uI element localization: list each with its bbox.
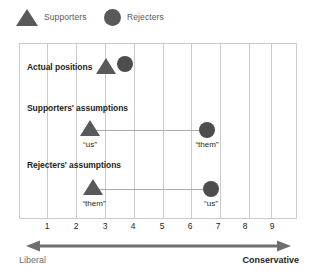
connector-supporters bbox=[90, 130, 207, 131]
row-label-supporters-assumptions: Supporters' assumptions bbox=[27, 103, 128, 113]
x-axis-tick-labels: 1 2 3 4 5 6 7 8 9 bbox=[0, 221, 315, 237]
tick-label-4: 4 bbox=[131, 221, 136, 231]
circle-icon bbox=[104, 9, 121, 26]
annotation-supporters-them: “them” bbox=[195, 140, 218, 149]
legend-item-rejecters: Rejecters bbox=[104, 9, 164, 26]
tick-label-5: 5 bbox=[160, 221, 165, 231]
tick-label-9: 9 bbox=[270, 221, 275, 231]
marker-triangle-actual bbox=[96, 58, 116, 74]
marker-circle-supporters-them bbox=[199, 122, 215, 138]
triangle-icon bbox=[16, 9, 38, 26]
tick-label-8: 8 bbox=[243, 221, 248, 231]
marker-circle-actual bbox=[117, 56, 133, 72]
annotation-supporters-us: “us” bbox=[83, 140, 97, 149]
ideology-scale-arrow bbox=[26, 240, 291, 252]
legend-label-rejecters: Rejecters bbox=[127, 13, 164, 22]
gridline-9 bbox=[271, 44, 272, 218]
marker-triangle-supporters-us bbox=[80, 120, 100, 136]
scale-endpoint-labels: Liberal Conservative bbox=[0, 255, 315, 271]
legend-label-supporters: Supporters bbox=[44, 13, 87, 22]
gridline-7 bbox=[220, 44, 221, 218]
row-label-actual-positions: Actual positions bbox=[27, 62, 92, 72]
marker-triangle-rejecters-them bbox=[83, 179, 103, 195]
tick-label-6: 6 bbox=[188, 221, 193, 231]
tick-label-7: 7 bbox=[216, 221, 221, 231]
annotation-rejecters-them: “them” bbox=[82, 199, 105, 208]
gridline-4 bbox=[134, 44, 135, 218]
tick-label-3: 3 bbox=[103, 221, 108, 231]
gridline-8 bbox=[249, 44, 250, 218]
gridline-5 bbox=[163, 44, 164, 218]
row-label-rejecters-assumptions: Rejecters' assumptions bbox=[27, 160, 121, 170]
marker-circle-rejecters-us bbox=[203, 181, 219, 197]
tick-label-2: 2 bbox=[74, 221, 79, 231]
gridline-6 bbox=[191, 44, 192, 218]
legend-item-supporters: Supporters bbox=[16, 9, 87, 26]
chart-legend: Supporters Rejecters bbox=[0, 0, 315, 40]
scale-label-liberal: Liberal bbox=[19, 255, 46, 265]
annotation-rejecters-us: “us” bbox=[204, 199, 218, 208]
scale-label-conservative: Conservative bbox=[242, 255, 299, 265]
tick-label-1: 1 bbox=[45, 221, 50, 231]
connector-rejecters bbox=[93, 189, 211, 190]
